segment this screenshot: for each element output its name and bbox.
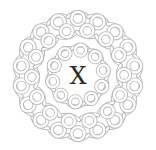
center-letter: X — [0, 0, 156, 150]
